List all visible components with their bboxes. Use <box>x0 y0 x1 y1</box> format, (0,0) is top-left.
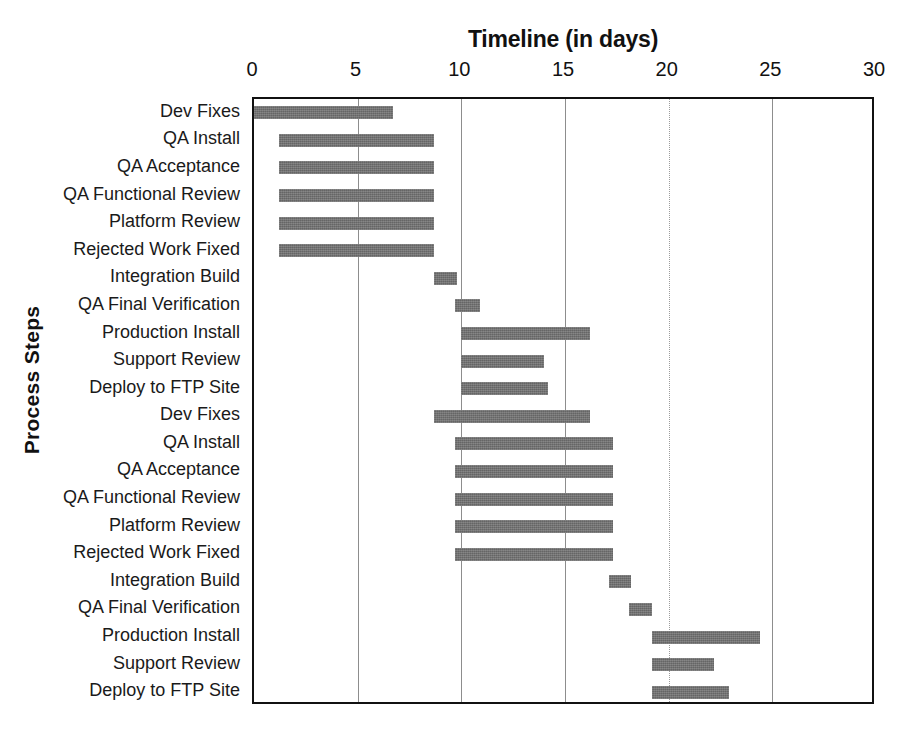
y-tick-label: Rejected Work Fixed <box>73 238 240 259</box>
y-tick-label: Integration Build <box>110 266 240 287</box>
gantt-chart: Timeline (in days) Process Steps 0510152… <box>0 0 907 739</box>
x-tick-label-15: 15 <box>552 58 574 81</box>
gantt-bar <box>455 548 613 561</box>
y-tick-label: Production Install <box>102 321 240 342</box>
x-tick-label-0: 0 <box>246 58 257 81</box>
gantt-bar <box>279 134 435 147</box>
y-tick-label: Rejected Work Fixed <box>73 542 240 563</box>
gantt-bar <box>434 272 457 285</box>
y-tick-label: QA Functional Review <box>63 487 240 508</box>
y-axis-tick-labels: Dev FixesQA InstallQA AcceptanceQA Funct… <box>20 97 246 704</box>
y-tick-label: Production Install <box>102 625 240 646</box>
bars-layer <box>254 99 872 702</box>
y-tick-label: Integration Build <box>110 569 240 590</box>
y-tick-label: QA Acceptance <box>117 459 240 480</box>
gantt-bar <box>652 686 729 699</box>
y-tick-label: QA Install <box>163 431 240 452</box>
x-tick-label-30: 30 <box>863 58 885 81</box>
gantt-bar <box>461 355 544 368</box>
gantt-bar <box>461 382 548 395</box>
x-tick-label-10: 10 <box>448 58 470 81</box>
gantt-bar <box>455 299 480 312</box>
gantt-bar <box>461 327 590 340</box>
gantt-bar <box>279 189 435 202</box>
y-tick-label: QA Functional Review <box>63 183 240 204</box>
y-tick-label: Support Review <box>113 652 240 673</box>
x-axis-title: Timeline (in days) <box>252 26 874 53</box>
y-tick-label: Deploy to FTP Site <box>89 680 240 701</box>
y-tick-label: QA Acceptance <box>117 155 240 176</box>
gantt-bar <box>609 575 632 588</box>
gantt-bar <box>455 493 613 506</box>
plot-area <box>252 97 874 704</box>
y-tick-label: QA Final Verification <box>78 293 240 314</box>
gantt-bar <box>455 520 613 533</box>
x-tick-label-5: 5 <box>350 58 361 81</box>
y-tick-label: QA Install <box>163 128 240 149</box>
gantt-bar <box>434 410 590 423</box>
gantt-bar <box>652 658 714 671</box>
gantt-bar <box>455 437 613 450</box>
x-tick-label-25: 25 <box>759 58 781 81</box>
y-tick-label: Support Review <box>113 349 240 370</box>
gantt-bar <box>279 244 435 257</box>
gantt-bar <box>254 106 393 119</box>
gantt-bar <box>279 217 435 230</box>
gantt-bar <box>629 603 652 616</box>
y-tick-label: Platform Review <box>109 211 240 232</box>
y-tick-label: Dev Fixes <box>160 404 240 425</box>
gantt-bar <box>652 631 760 644</box>
y-tick-label: Deploy to FTP Site <box>89 376 240 397</box>
x-tick-label-20: 20 <box>656 58 678 81</box>
gantt-bar <box>455 465 613 478</box>
gantt-bar <box>279 161 435 174</box>
y-tick-label: Dev Fixes <box>160 100 240 121</box>
x-axis-tick-labels: 051015202530 <box>252 58 874 84</box>
y-tick-label: QA Final Verification <box>78 597 240 618</box>
y-tick-label: Platform Review <box>109 514 240 535</box>
